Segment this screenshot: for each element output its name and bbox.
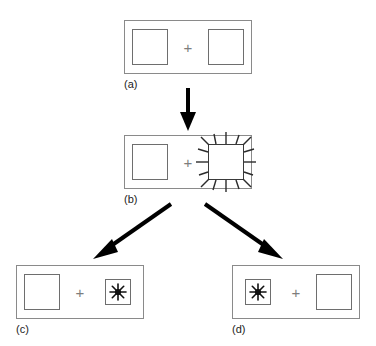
spike-rays bbox=[194, 130, 258, 194]
starburst-square-icon bbox=[245, 279, 271, 305]
starburst-icon bbox=[108, 282, 128, 302]
plus-icon: + bbox=[175, 40, 201, 55]
panel-c-right-slot bbox=[93, 279, 143, 305]
panel-c-label: (c) bbox=[16, 324, 29, 335]
panel-b: + bbox=[124, 135, 252, 189]
panel-c: + bbox=[16, 265, 144, 319]
panel-d: + bbox=[232, 265, 360, 319]
plain-square-icon bbox=[316, 274, 352, 310]
panel-d-label: (d) bbox=[232, 324, 245, 335]
plus-icon: + bbox=[283, 285, 309, 300]
arrow-a-to-b bbox=[180, 88, 196, 131]
plus-icon: + bbox=[67, 285, 93, 300]
panel-a-right-slot bbox=[201, 29, 251, 65]
starburst-square-icon bbox=[105, 279, 131, 305]
panel-b-right-slot bbox=[201, 144, 251, 180]
plain-square-icon bbox=[24, 274, 60, 310]
panel-b-label: (b) bbox=[124, 194, 137, 205]
plain-square-icon bbox=[208, 29, 244, 65]
starburst-icon bbox=[248, 282, 268, 302]
panel-b-left-slot bbox=[125, 144, 175, 180]
panel-d-right-slot bbox=[309, 274, 359, 310]
arrow-b-to-c bbox=[93, 204, 171, 259]
plain-square-icon bbox=[132, 29, 168, 65]
panel-a: + bbox=[124, 20, 252, 74]
plus-icon: + bbox=[175, 155, 201, 170]
diagram-canvas: + (a) + bbox=[0, 0, 376, 346]
panel-d-left-slot bbox=[233, 279, 283, 305]
plain-square-icon bbox=[132, 144, 168, 180]
panel-a-label: (a) bbox=[124, 79, 137, 90]
arrow-b-to-d bbox=[205, 204, 283, 259]
spiky-square-icon bbox=[208, 144, 244, 180]
panel-c-left-slot bbox=[17, 274, 67, 310]
panel-a-left-slot bbox=[125, 29, 175, 65]
